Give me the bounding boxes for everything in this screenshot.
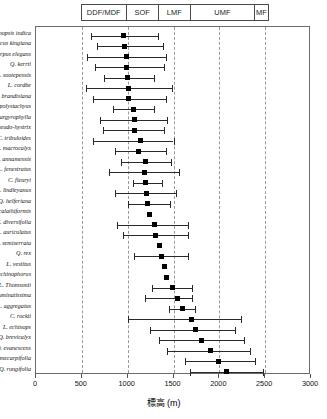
error-bar (145, 298, 192, 299)
error-bar-cap-low (185, 358, 186, 365)
mean-marker (125, 75, 130, 80)
x-tick-2500 (264, 374, 265, 378)
mean-marker (122, 44, 127, 49)
mean-marker (126, 96, 131, 101)
x-tick-0 (35, 374, 36, 378)
species-label: L. Thomsonii (0, 282, 31, 289)
error-bar-cap-high (188, 222, 189, 229)
mean-marker (124, 65, 129, 70)
x-tick-label: 1500 (164, 379, 180, 388)
error-bar-cap-low (145, 295, 146, 302)
species-label: C. argyrophylla (0, 114, 31, 121)
error-bar-cap-high (188, 232, 189, 239)
error-bar-cap-low (95, 64, 96, 71)
species-label: Q. evanescens (0, 345, 31, 352)
data-row (36, 199, 309, 209)
mean-marker (124, 54, 129, 59)
error-bar-cap-high (162, 180, 163, 187)
species-label: C. pseudo-hystrix (0, 124, 31, 131)
data-row (36, 189, 309, 199)
error-bar-cap-high (235, 327, 236, 334)
species-label: Q. semiserrata (0, 240, 31, 247)
error-bar (95, 67, 165, 68)
x-tick-500 (81, 374, 82, 378)
x-tick-3000 (310, 374, 311, 378)
zone-label: DDF/MDF (87, 8, 121, 17)
data-row (36, 220, 309, 230)
species-label: Lithocarpus elegans (0, 51, 31, 58)
x-tick-1000 (127, 374, 128, 378)
zone-label: LMF (167, 8, 182, 17)
error-bar (97, 46, 163, 47)
error-bar-cap-low (159, 337, 160, 344)
error-bar-cap-high (192, 295, 193, 302)
species-label: C. rockii (10, 313, 31, 320)
error-bar-cap-high (176, 190, 177, 197)
error-bar-cap-high (250, 348, 251, 355)
error-bar-cap-low (93, 138, 94, 145)
error-bar-cap-high (166, 54, 167, 61)
data-row (36, 94, 309, 104)
x-tick-2000 (218, 374, 219, 378)
zone-label: UMF (214, 8, 230, 17)
x-tick-label: 2500 (256, 379, 272, 388)
data-row (36, 336, 309, 346)
data-row (36, 168, 309, 178)
error-bar-cap-high (171, 159, 172, 166)
data-row (36, 241, 309, 251)
data-row (36, 283, 309, 293)
error-bar (93, 141, 174, 142)
mean-marker (189, 317, 194, 322)
error-bar-cap-low (123, 232, 124, 239)
species-label: Q. brevicalyx (0, 334, 31, 341)
mean-marker (170, 285, 175, 290)
species-label: L. sootepensis (0, 72, 31, 79)
error-bar-cap-high (241, 316, 242, 323)
error-bar-cap-low (100, 117, 101, 124)
mean-marker (159, 254, 164, 259)
error-bar-cap-low (87, 54, 88, 61)
error-bar-cap-low (134, 253, 135, 260)
zone-cell-ddf-mdf: DDF/MDF (81, 4, 127, 21)
error-bar-cap-low (121, 159, 122, 166)
error-bar-cap-low (91, 33, 92, 40)
x-tick-label: 2000 (210, 379, 226, 388)
species-label: Q. kerrii (10, 61, 31, 68)
error-bar-cap-high (166, 148, 167, 155)
species-label: Q. semecarpifolia (0, 355, 31, 362)
species-label: L. polystachyus (0, 103, 31, 110)
error-bar-cap-low (152, 285, 153, 292)
data-row (36, 73, 309, 83)
error-bar-cap-high (164, 127, 165, 134)
species-label: C. tribuloides (0, 135, 31, 142)
error-bar-cap-high (172, 85, 173, 92)
data-row (36, 304, 309, 314)
error-bar-cap-low (103, 127, 104, 134)
mean-marker (164, 275, 169, 280)
error-bar-cap-low (109, 169, 110, 176)
error-bar-cap-high (163, 43, 164, 50)
species-label: Q. rungifolia (0, 366, 31, 373)
mean-marker (152, 222, 157, 227)
species-label: Q. macrocalyx (0, 145, 31, 152)
data-row (36, 357, 309, 367)
species-label: L. aggregatus (0, 303, 31, 310)
mean-marker (138, 138, 143, 143)
mean-marker (175, 296, 180, 301)
species-label: Castanopsis indica (0, 30, 31, 37)
mean-marker (143, 159, 148, 164)
species-label: L. vestitus (6, 261, 31, 268)
species-label: L. cordbe (8, 82, 31, 89)
zone-cell-mf: MF (255, 4, 269, 21)
data-row (36, 252, 309, 262)
mean-marker (193, 327, 198, 332)
mean-marker (147, 212, 152, 217)
error-bar-cap-high (154, 75, 155, 82)
error-bar-cap-high (192, 285, 193, 292)
data-row (36, 315, 309, 325)
species-label: C. diversifolia (0, 219, 31, 226)
plot-area (35, 26, 310, 374)
mean-marker (131, 107, 136, 112)
mean-marker (162, 264, 167, 269)
error-bar-cap-low (133, 180, 134, 187)
